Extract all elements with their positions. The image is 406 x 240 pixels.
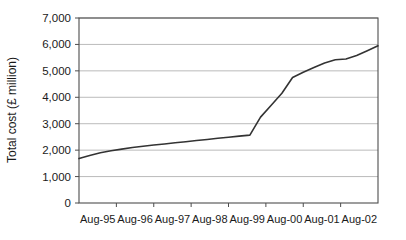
y-tick-label: 5,000 xyxy=(42,65,71,77)
x-tick-label: Aug-95 xyxy=(80,213,115,225)
y-tick-label: 2,000 xyxy=(42,144,71,156)
chart-container: 7,0006,0005,0004,0003,0002,0001,0000 Aug… xyxy=(0,0,406,240)
y-tick-label: 6,000 xyxy=(42,38,71,50)
y-tick-label: 1,000 xyxy=(42,171,71,183)
x-tick-label: Aug-97 xyxy=(155,213,190,225)
x-tick-label: Aug-02 xyxy=(342,213,377,225)
y-tick-label: 7,000 xyxy=(42,12,71,24)
x-tick-label: Aug-00 xyxy=(267,213,302,225)
x-tick-label: Aug-96 xyxy=(117,213,152,225)
y-tick-label: 4,000 xyxy=(42,91,71,103)
y-tick-label: 3,000 xyxy=(42,118,71,130)
y-tick-label: 0 xyxy=(65,197,71,209)
x-tick-label: Aug-98 xyxy=(192,213,227,225)
x-tick-label: Aug-99 xyxy=(229,213,264,225)
line-chart: 7,0006,0005,0004,0003,0002,0001,0000 Aug… xyxy=(0,0,406,240)
x-tick-label: Aug-01 xyxy=(304,213,339,225)
x-axis-tick-labels: Aug-95Aug-96Aug-97Aug-98Aug-99Aug-00Aug-… xyxy=(80,213,377,225)
y-axis-title: Total cost (£ million) xyxy=(5,57,19,163)
